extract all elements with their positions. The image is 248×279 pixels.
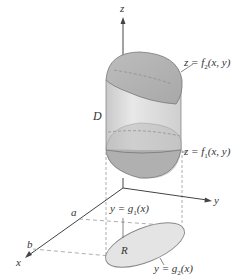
bottom-surface-label: z = f1(x, y) [184, 146, 230, 160]
solid-label: D [93, 110, 102, 122]
x-upper-bound-label: b [27, 239, 33, 250]
y-axis-label: y [214, 195, 219, 206]
x-axis-arrowhead [25, 251, 32, 258]
bottom-surface [106, 150, 181, 178]
diagram-svg [0, 0, 248, 279]
lower-curve-label: y = g1(x) [110, 203, 149, 217]
z-axis-arrowhead [121, 17, 126, 24]
y-axis-arrowhead [205, 198, 213, 203]
upper-curve-label: y = g2(x) [154, 263, 193, 277]
x-axis-label: x [16, 257, 21, 268]
region-label: R [121, 245, 128, 256]
y-axis [123, 188, 207, 200]
z-axis-label: z [120, 3, 124, 14]
solid-region-diagram: z y x z = f2(x, y) z = f1(x, y) D R y = … [0, 0, 248, 279]
top-surface-label: z = f2(x, y) [184, 57, 230, 71]
x-lower-bound-label: a [71, 207, 77, 218]
